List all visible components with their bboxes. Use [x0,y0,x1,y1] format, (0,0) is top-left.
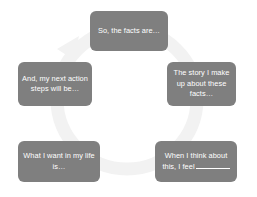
node-want-label: What I want in my life is… [22,151,96,172]
fill-in-blank [196,161,230,169]
node-feel-label: When I think about this, I feel [159,151,233,173]
node-story[interactable]: The story I make up about these facts… [167,62,236,106]
node-facts-label: So, the facts are… [94,26,164,37]
node-action-label: And, my next action steps will be… [22,74,88,95]
node-story-label: The story I make up about these facts… [171,68,232,100]
node-facts[interactable]: So, the facts are… [90,11,168,51]
cycle-diagram: So, the facts are… The story I make up a… [0,0,257,197]
node-action[interactable]: And, my next action steps will be… [18,62,92,106]
node-want[interactable]: What I want in my life is… [18,141,100,182]
node-feel[interactable]: When I think about this, I feel [155,141,237,182]
